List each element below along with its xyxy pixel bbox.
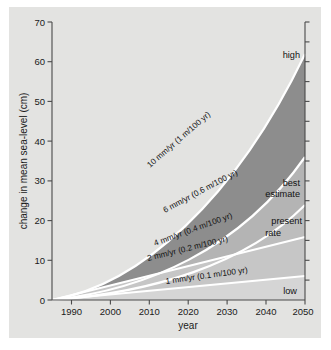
- y-tick-group: [48, 22, 53, 300]
- x-tick-label-2030: 2030: [217, 306, 238, 317]
- x-axis-title: year: [178, 320, 198, 331]
- x-tick-label-2040: 2040: [255, 306, 276, 317]
- rate-10-label: 10 mm/yr (1 m/100 yr): [145, 110, 212, 170]
- scenario-present-rate-label-line1: present: [271, 216, 302, 226]
- band-group: [52, 54, 305, 300]
- y-tick-label-50: 50: [34, 96, 45, 107]
- scenario-best-estimate-label-line1: best: [283, 178, 301, 188]
- scenario-best-estimate-label-line2: estimate: [265, 189, 300, 199]
- scenario-present-rate-label-line2: rate: [265, 228, 281, 238]
- x-tick-label-2020: 2020: [178, 306, 199, 317]
- x-tick-label-2000: 2000: [100, 306, 121, 317]
- y-tick-label-40: 40: [34, 136, 45, 147]
- y-tick-label-30: 30: [34, 175, 45, 186]
- x-tick-group: [72, 300, 306, 305]
- x-tick-label-2050: 2050: [292, 306, 313, 317]
- x-tick-label-1990: 1990: [61, 306, 82, 317]
- x-tick-label-2010: 2010: [139, 306, 160, 317]
- figure-root: 0 10 20 30 40 50 60 70 1990 2000 2010 20…: [0, 0, 331, 350]
- y-tick-label-70: 70: [34, 17, 45, 28]
- y-tick-label-0: 0: [40, 295, 45, 306]
- right-tick-group: [305, 22, 310, 280]
- y-axis-title: change in mean sea-level (cm): [18, 93, 29, 230]
- y-tick-label-10: 10: [34, 255, 45, 266]
- sea-level-projection-chart: 0 10 20 30 40 50 60 70 1990 2000 2010 20…: [0, 0, 331, 350]
- scenario-low-label: low: [283, 286, 297, 296]
- scenario-high-label: high: [283, 50, 300, 60]
- y-tick-label-60: 60: [34, 56, 45, 67]
- y-tick-label-20: 20: [34, 215, 45, 226]
